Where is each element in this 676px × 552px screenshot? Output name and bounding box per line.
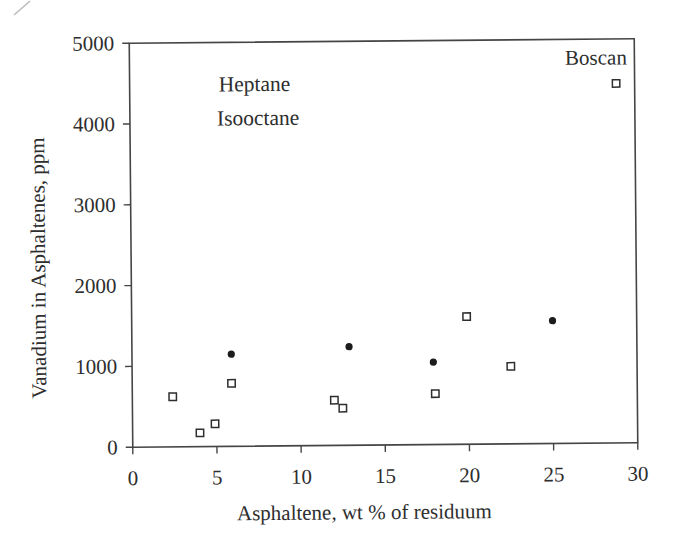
x-axis-title: Asphaltene, wt % of residuum (237, 499, 492, 525)
data-point-heptane (549, 317, 556, 324)
data-point-isooctane (507, 363, 514, 370)
data-point-isooctane (169, 393, 176, 400)
data-point-heptane (228, 351, 235, 358)
data-point-isooctane (196, 429, 203, 436)
y-tick-label: 3000 (74, 193, 116, 217)
x-tick-label: 0 (128, 466, 139, 490)
y-tick-label: 4000 (73, 112, 115, 136)
data-point-isooctane (463, 313, 470, 320)
plot-group: 010002000300040005000051015202530Asphalt… (24, 27, 649, 527)
chart-canvas: 010002000300040005000051015202530Asphalt… (0, 0, 676, 552)
data-point-isooctane (339, 404, 346, 411)
x-tick-label: 15 (375, 464, 396, 488)
data-point-isooctane (432, 390, 439, 397)
data-point-isooctane (228, 380, 235, 387)
x-tick-label: 10 (291, 465, 312, 489)
legend-label-isooctane: Isooctane (217, 106, 300, 131)
plot-frame (129, 39, 638, 447)
x-tick-label: 30 (627, 462, 648, 486)
y-tick-label: 2000 (74, 274, 116, 298)
data-point-isooctane (612, 80, 619, 87)
y-tick-label: 0 (107, 435, 118, 459)
scan-artifact-mark (14, 1, 30, 15)
data-point-heptane (345, 343, 352, 350)
annotation-boscan: Boscan (565, 45, 628, 70)
y-tick-label: 1000 (75, 355, 117, 379)
x-tick-label: 20 (459, 463, 480, 487)
scatter-plot-figure: 010002000300040005000051015202530Asphalt… (0, 0, 676, 552)
legend-label-heptane: Heptane (219, 72, 291, 97)
y-axis-title: Vanadium in Asphaltenes, ppm (25, 137, 51, 399)
data-point-isooctane (211, 420, 218, 427)
x-tick-label: 5 (212, 465, 223, 489)
x-tick-label: 25 (543, 462, 564, 486)
data-point-isooctane (331, 396, 338, 403)
data-point-heptane (430, 359, 437, 366)
y-tick-label: 5000 (72, 31, 114, 55)
